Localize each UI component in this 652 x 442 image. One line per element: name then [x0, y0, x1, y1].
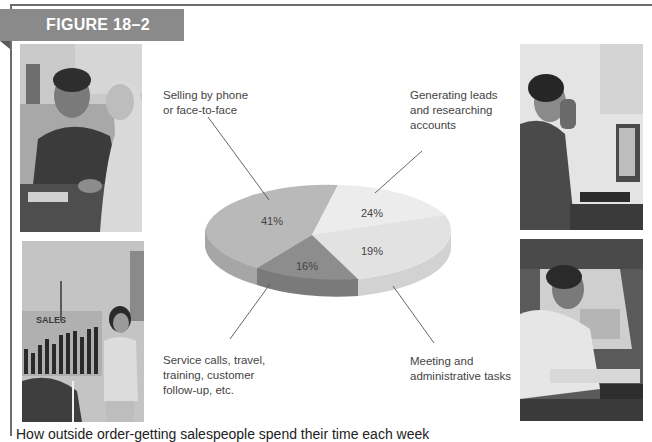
photo-handshake [20, 44, 142, 232]
pct-selling: 41% [261, 215, 283, 227]
figure-tab-fold [0, 41, 10, 49]
figure-caption: How outside order-getting salespeople sp… [16, 426, 429, 442]
figure-frame-left [10, 4, 12, 436]
pct-generating: 24% [361, 207, 383, 219]
label-generating: Generating leads and researching account… [410, 88, 498, 133]
photo-presentation: SALES [22, 241, 144, 422]
leader-lines [208, 117, 434, 343]
pie-slice-meeting [312, 215, 451, 279]
pie-slice-service [257, 235, 358, 280]
photo-car [520, 239, 643, 421]
pct-service: 16% [296, 260, 318, 272]
figure-tab: FIGURE 18–2 [0, 9, 184, 41]
pie-slice-generating [312, 185, 451, 235]
label-selling: Selling by phone or face-to-face [163, 88, 248, 118]
pie-slice-selling [226, 185, 338, 268]
label-meeting: Meeting and administrative tasks [410, 354, 511, 384]
pie-depth [205, 230, 451, 297]
figure-number: FIGURE 18–2 [46, 16, 150, 34]
pct-meeting: 19% [361, 245, 383, 257]
photo-computer [520, 44, 643, 230]
label-service: Service calls, travel, training, custome… [163, 353, 265, 398]
figure-frame-top [10, 4, 652, 6]
